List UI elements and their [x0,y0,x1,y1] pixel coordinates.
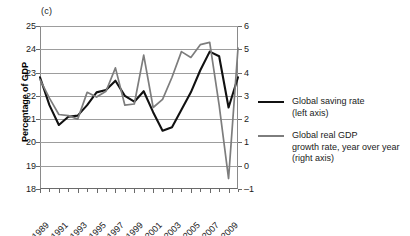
legend-label-line-2: growth rate, year over year [292,142,408,154]
legend-line-swatch [258,135,284,137]
panel-label: (c) [41,6,52,16]
figure-panel-c: (c) Percentage of GDP 2524232221201918 6… [0,0,410,236]
legend-entry-1[interactable]: Global saving rate(left axis) [258,96,408,119]
x-axis-tick-mark [125,189,126,192]
legend-label-line-1: Global saving rate [292,96,408,108]
y-axis-right-tick-mark [238,73,242,74]
series-line-2 [40,42,238,178]
legend-label-line-1: Global real GDP [292,130,408,142]
series-lines [40,26,238,189]
legend-label-line-3: (right axis) [292,153,408,165]
series-line-1 [40,52,238,131]
x-axis-tick-mark [210,189,211,193]
x-axis-tick-mark [49,189,50,192]
plot-area: 2524232221201918 6543210–1 1989199119931… [40,26,238,189]
x-axis-tick-mark [163,189,164,192]
x-axis-tick-label: 2009 [218,220,239,236]
y-axis-right-tick-mark [238,142,242,143]
x-axis-tick-mark [172,189,173,193]
x-axis-tick-mark [40,189,41,193]
x-axis-tick-mark [59,189,60,193]
x-axis-tick-mark [200,189,201,192]
x-axis-tick-mark [144,189,145,192]
x-axis-tick-mark [134,189,135,193]
x-axis-tick-mark [78,189,79,193]
legend-entry-2[interactable]: Global real GDPgrowth rate, year over ye… [258,130,408,165]
y-axis-right-tick-mark [238,26,242,27]
x-axis-tick-mark [68,189,69,192]
x-axis-tick-mark [181,189,182,192]
x-axis-tick-mark [229,189,230,193]
y-axis-right-tick-mark [238,119,242,120]
x-axis-tick-mark [87,189,88,192]
y-axis-right-tick-mark [238,166,242,167]
x-axis-tick-mark [238,189,239,192]
legend: Global saving rate(left axis)Global real… [258,96,408,176]
x-axis-tick-mark [115,189,116,193]
x-axis-tick-mark [97,189,98,193]
x-axis-tick-mark [219,189,220,192]
legend-line-swatch [258,101,284,103]
y-axis-right-tick-mark [238,96,242,97]
legend-label-line-2: (left axis) [292,108,408,120]
x-axis-tick-mark [106,189,107,192]
x-axis-tick-mark [153,189,154,193]
x-axis-tick-mark [191,189,192,193]
